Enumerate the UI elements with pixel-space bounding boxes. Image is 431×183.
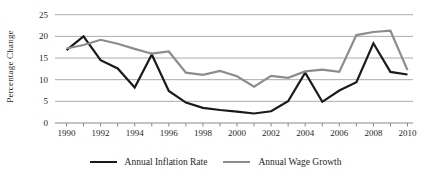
wage-growth-line-swatch xyxy=(223,161,250,164)
inflation-line-swatch xyxy=(90,161,117,164)
svg-text:10: 10 xyxy=(39,75,49,85)
svg-text:2008: 2008 xyxy=(364,128,383,138)
svg-text:2002: 2002 xyxy=(262,128,280,138)
svg-text:0: 0 xyxy=(44,118,49,128)
svg-text:20: 20 xyxy=(39,31,49,41)
svg-text:1994: 1994 xyxy=(126,128,145,138)
chart-container: Percentage Change 0510152025199019921994… xyxy=(0,0,431,183)
legend-item-inflation: Annual Inflation Rate xyxy=(90,157,208,167)
chart-legend: Annual Inflation Rate Annual Wage Growth xyxy=(0,157,431,167)
svg-text:1998: 1998 xyxy=(194,128,213,138)
svg-text:1992: 1992 xyxy=(92,128,110,138)
svg-text:2006: 2006 xyxy=(330,128,349,138)
svg-text:2010: 2010 xyxy=(399,128,418,138)
svg-text:1990: 1990 xyxy=(58,128,77,138)
svg-text:15: 15 xyxy=(39,53,49,63)
line-chart: 0510152025199019921994199619982000200220… xyxy=(0,0,431,148)
legend-item-wage-growth: Annual Wage Growth xyxy=(223,157,341,167)
svg-text:2004: 2004 xyxy=(296,128,315,138)
legend-label-inflation: Annual Inflation Rate xyxy=(125,157,208,167)
svg-text:1996: 1996 xyxy=(160,128,179,138)
svg-text:5: 5 xyxy=(44,96,49,106)
svg-text:2000: 2000 xyxy=(228,128,247,138)
svg-text:25: 25 xyxy=(39,10,49,20)
legend-label-wage-growth: Annual Wage Growth xyxy=(258,157,341,167)
